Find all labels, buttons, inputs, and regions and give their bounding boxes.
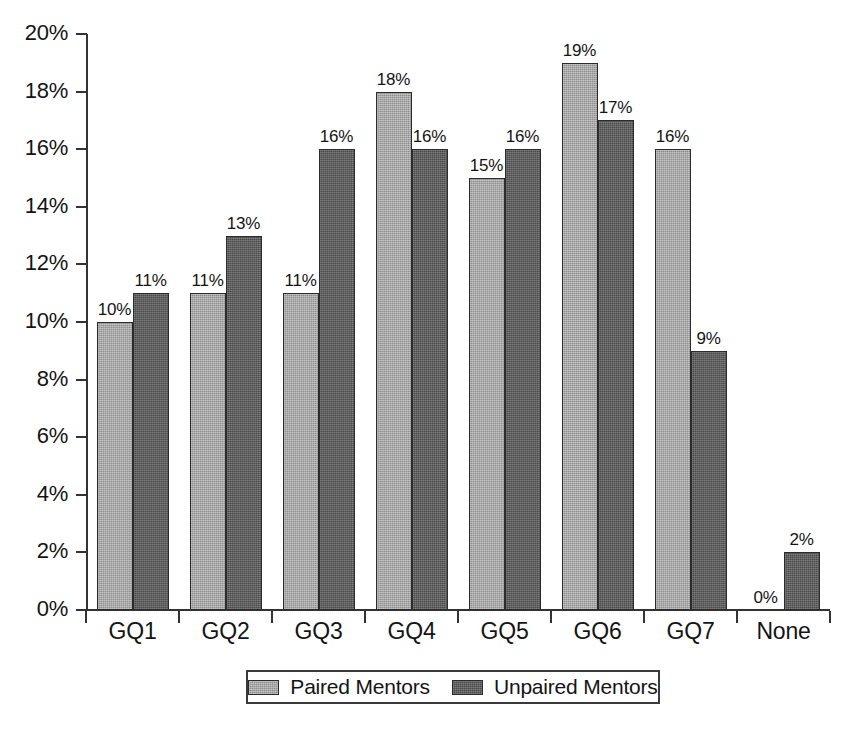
legend-swatch-paired — [248, 680, 279, 695]
bar-gq4-unpaired — [412, 149, 448, 610]
legend-entry: Paired Mentors — [248, 676, 430, 698]
y-axis-tick-label: 12% — [0, 252, 68, 274]
bar-value-label: 16% — [313, 128, 361, 146]
bar-gq3-unpaired — [319, 149, 355, 610]
y-axis-tick-label: 16% — [0, 137, 68, 159]
bar-value-label: 17% — [592, 99, 640, 117]
x-axis-category-label: GQ4 — [365, 618, 458, 644]
x-axis-category-label: GQ5 — [458, 618, 551, 644]
legend-swatch-unpaired — [452, 680, 483, 695]
x-axis-category-label: GQ1 — [86, 618, 179, 644]
y-axis-tick-label: 4% — [0, 483, 68, 505]
x-axis-category-label: GQ2 — [179, 618, 272, 644]
y-axis-tick-label: 2% — [0, 540, 68, 562]
bar-value-label: 15% — [463, 157, 511, 175]
legend-entry: Unpaired Mentors — [452, 676, 658, 698]
bar-gq5-unpaired — [505, 149, 541, 610]
legend-label: Paired Mentors — [290, 676, 430, 698]
legend-label: Unpaired Mentors — [494, 676, 658, 698]
x-axis-category-label: GQ6 — [551, 618, 644, 644]
plot-area: 10%11%11%13%11%16%18%16%15%16%19%17%16%9… — [86, 34, 830, 610]
y-axis-tick-label: 10% — [0, 310, 68, 332]
x-axis-category-label: GQ3 — [272, 618, 365, 644]
bar-value-label: 9% — [685, 330, 733, 348]
bar-gq4-paired — [376, 92, 412, 610]
bar-gq6-unpaired — [598, 120, 634, 610]
x-axis-category-label: GQ7 — [644, 618, 737, 644]
bar-value-label: 16% — [499, 128, 547, 146]
bar-value-label: 18% — [370, 71, 418, 89]
bar-chart: 0%2%4%6%8%10%12%14%16%18%20% GQ1GQ2GQ3GQ… — [0, 0, 844, 733]
bar-gq7-paired — [655, 149, 691, 610]
bar-value-label: 10% — [91, 301, 139, 319]
bar-value-label: 2% — [778, 531, 826, 549]
y-axis-tick-label: 18% — [0, 80, 68, 102]
bar-gq1-paired — [97, 322, 133, 610]
chart-legend: Paired MentorsUnpaired Mentors — [246, 670, 660, 704]
bar-gq2-unpaired — [226, 236, 262, 610]
y-axis-tick-label: 14% — [0, 195, 68, 217]
y-axis-tick-label: 6% — [0, 425, 68, 447]
bar-value-label: 11% — [184, 272, 232, 290]
bar-value-label: 16% — [406, 128, 454, 146]
x-axis-category-label: None — [737, 618, 830, 644]
bar-gq2-paired — [190, 293, 226, 610]
bar-gq5-paired — [469, 178, 505, 610]
bar-none-unpaired — [784, 552, 820, 610]
bar-value-label: 16% — [649, 128, 697, 146]
bar-gq3-paired — [283, 293, 319, 610]
y-axis-tick-label: 20% — [0, 22, 68, 44]
bar-gq1-unpaired — [133, 293, 169, 610]
bar-gq6-paired — [562, 63, 598, 610]
bar-value-label: 19% — [556, 42, 604, 60]
y-axis-tick-label: 0% — [0, 598, 68, 620]
y-axis-tick-label: 8% — [0, 368, 68, 390]
bar-value-label: 0% — [742, 589, 790, 607]
bar-value-label: 11% — [127, 272, 175, 290]
bar-value-label: 11% — [277, 272, 325, 290]
bar-gq7-unpaired — [691, 351, 727, 610]
bar-value-label: 13% — [220, 215, 268, 233]
